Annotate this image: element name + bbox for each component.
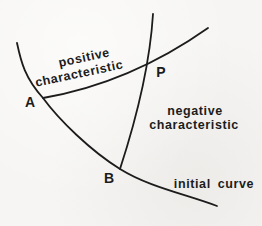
point-p-label: P xyxy=(156,64,165,80)
negative-characteristic-line xyxy=(120,14,153,169)
initial-curve-label: initial curve xyxy=(174,177,254,191)
negative-characteristic-label-line2: characteristic xyxy=(149,118,239,132)
characteristics-diagram: positive characteristic negative charact… xyxy=(0,0,262,226)
negative-characteristic-label-line1: negative xyxy=(167,104,223,118)
diagram-page: positive characteristic negative charact… xyxy=(0,0,262,226)
point-b-label: B xyxy=(104,170,114,186)
point-a-label: A xyxy=(25,94,35,110)
